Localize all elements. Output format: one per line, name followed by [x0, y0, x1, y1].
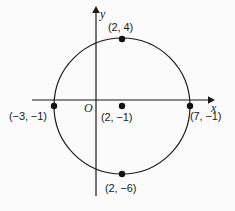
origin-label: O [84, 101, 93, 116]
point-label-left: (−3, −1) [9, 110, 47, 122]
point-top [119, 36, 125, 42]
y-axis-arrow-icon [92, 6, 100, 13]
coordinate-plane-figure: (2, 4) (−3, −1) (7, −1) (2, −1) (2, −6) … [0, 0, 235, 211]
point-label-top: (2, 4) [108, 21, 133, 33]
point-left [51, 103, 57, 109]
point-bottom [119, 171, 125, 177]
point-right [187, 103, 193, 109]
point-label-bottom: (2, −6) [105, 182, 136, 194]
point-center [119, 103, 125, 109]
x-axis-label: x [211, 101, 216, 116]
point-label-center: (2, −1) [101, 111, 132, 123]
point-label-right: (7, −1) [190, 110, 221, 122]
y-axis-label: y [100, 7, 105, 22]
